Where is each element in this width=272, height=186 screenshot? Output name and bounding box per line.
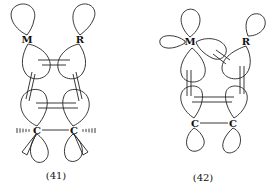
upper-left-p-lobe <box>181 48 206 82</box>
atom-m: M <box>184 36 195 47</box>
atom-c-right: C <box>70 125 78 136</box>
atom-c-left: C <box>191 118 199 129</box>
m-right-lobe <box>196 39 226 60</box>
upper-right-p-lobe <box>58 44 86 79</box>
diagram-label: (42) <box>193 172 214 183</box>
wedge-left <box>22 134 36 155</box>
bottom-left-lobe <box>187 128 205 151</box>
diagram-42: M R C C (42) <box>160 9 265 183</box>
orbital-diagrams: M R C C (41) M R <box>0 0 272 186</box>
diagram-41: M R C C (41) <box>11 4 95 181</box>
upper-left-p-lobe <box>22 44 50 79</box>
m-lone-pair-lobe <box>11 4 35 35</box>
m-upper-lobe <box>181 9 200 37</box>
r-lone-pair-lobe <box>73 4 95 35</box>
atom-m: M <box>21 34 32 45</box>
atom-c-left: C <box>33 125 41 136</box>
hashed-wedge-right <box>83 128 95 133</box>
atom-r: R <box>242 36 251 47</box>
atom-c-right: C <box>229 118 237 129</box>
hashed-wedge-left <box>17 128 29 133</box>
double-bond-line <box>76 72 82 99</box>
diagram-label: (41) <box>46 170 67 181</box>
bottom-right-lobe <box>223 128 241 153</box>
double-bond-line <box>26 72 32 99</box>
r-lone-pair-lobe <box>246 14 265 36</box>
double-bond-line <box>216 50 230 60</box>
atom-r: R <box>76 34 85 45</box>
m-left-lobe <box>160 36 185 49</box>
